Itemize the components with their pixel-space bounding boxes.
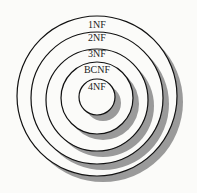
level-label: 4NF bbox=[88, 81, 106, 92]
level-label: 3NF bbox=[88, 48, 106, 59]
level-label: 2NF bbox=[88, 32, 106, 43]
level-label: 1NF bbox=[88, 19, 106, 30]
level-label: BCNF bbox=[84, 64, 111, 75]
normal-forms-diagram: 1NF2NF3NFBCNF4NF bbox=[0, 0, 197, 193]
